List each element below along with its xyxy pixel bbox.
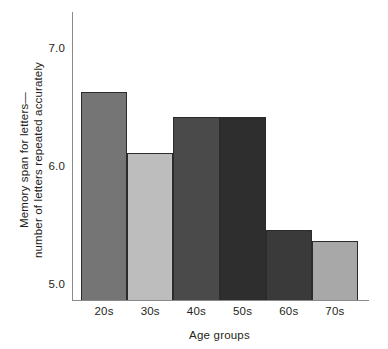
x-tick-label: 20s xyxy=(81,305,127,317)
x-axis-tick-labels: 20s30s40s50s60s70s xyxy=(81,305,358,317)
x-axis-line xyxy=(72,300,369,301)
x-tick-label: 70s xyxy=(312,305,358,317)
bar xyxy=(127,153,173,300)
bar xyxy=(173,117,219,300)
bar xyxy=(312,241,358,300)
y-axis-title: Memory span for letters— number of lette… xyxy=(17,35,45,285)
x-tick-label: 40s xyxy=(173,305,219,317)
y-axis-line xyxy=(72,12,73,301)
bar xyxy=(266,230,312,300)
x-tick-label: 60s xyxy=(266,305,312,317)
bar-series xyxy=(81,12,358,300)
bar-chart-figure: 7.0 6.0 5.0 20s30s40s50s60s70s Age group… xyxy=(0,0,388,349)
plot-area xyxy=(81,12,358,300)
x-tick-label: 30s xyxy=(127,305,173,317)
bar xyxy=(81,92,127,300)
bar xyxy=(220,117,266,300)
x-axis-title: Age groups xyxy=(81,329,358,341)
x-tick-label: 50s xyxy=(220,305,266,317)
